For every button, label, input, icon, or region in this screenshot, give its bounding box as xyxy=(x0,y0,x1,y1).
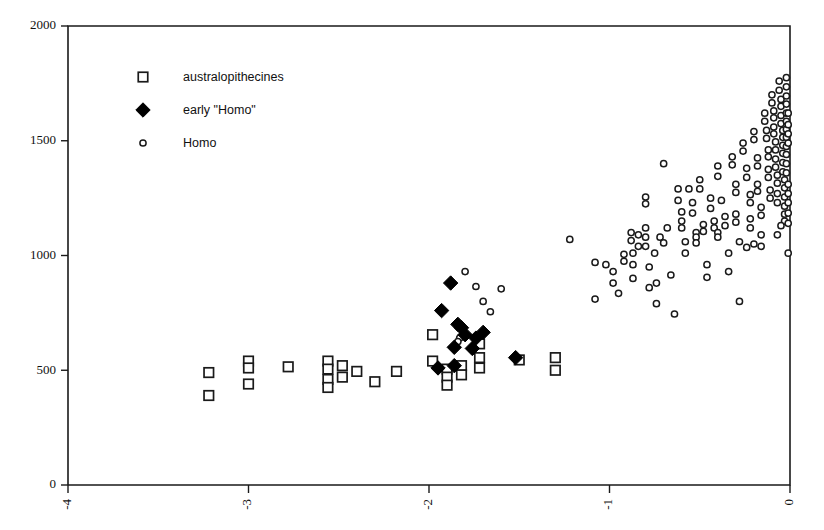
chart-legend: australopithecinesearly "Homo"Homo xyxy=(136,70,284,150)
data-point xyxy=(726,268,732,274)
data-points xyxy=(204,75,791,401)
data-point xyxy=(751,128,757,134)
x-tick-label--3: -3 xyxy=(239,499,254,510)
data-point xyxy=(772,164,778,170)
data-point xyxy=(771,124,777,130)
data-point xyxy=(774,180,780,186)
data-point xyxy=(715,173,721,179)
data-point xyxy=(643,234,649,240)
data-point xyxy=(204,391,214,401)
data-point xyxy=(697,186,703,192)
data-point xyxy=(776,78,782,84)
data-point xyxy=(733,189,739,195)
data-point xyxy=(785,110,791,116)
data-point xyxy=(664,225,670,231)
data-point xyxy=(392,367,402,377)
data-point xyxy=(783,101,789,107)
data-point xyxy=(736,298,742,304)
data-point xyxy=(772,156,778,162)
data-point xyxy=(646,285,652,291)
data-point xyxy=(689,210,695,216)
data-point xyxy=(621,258,627,264)
y-tick-label-2000: 2000 xyxy=(30,17,56,32)
data-point xyxy=(740,148,746,154)
data-point xyxy=(338,372,348,382)
data-point xyxy=(704,262,710,268)
data-point xyxy=(653,301,659,307)
data-point xyxy=(615,290,621,296)
data-point xyxy=(679,225,685,231)
data-point xyxy=(785,181,791,187)
data-point xyxy=(762,110,768,116)
data-point xyxy=(783,93,789,99)
data-point xyxy=(747,192,753,198)
data-point xyxy=(661,161,667,167)
data-point xyxy=(462,268,468,274)
data-point xyxy=(630,250,636,256)
data-point xyxy=(244,379,254,389)
x-tick-label--1: -1 xyxy=(600,499,615,510)
data-point xyxy=(675,197,681,203)
data-point xyxy=(592,259,598,265)
data-point xyxy=(785,140,791,146)
data-point xyxy=(628,237,634,243)
legend-label: Homo xyxy=(183,136,216,150)
data-point xyxy=(621,251,627,257)
data-point xyxy=(763,135,769,141)
data-point xyxy=(733,219,739,225)
data-point xyxy=(700,221,706,227)
data-point xyxy=(671,311,677,317)
data-point xyxy=(661,240,667,246)
data-point xyxy=(744,244,750,250)
data-point xyxy=(783,161,789,167)
data-point xyxy=(774,200,780,206)
data-point xyxy=(751,241,757,247)
y-tick-label-0: 0 xyxy=(50,476,57,491)
data-point xyxy=(428,330,438,340)
data-point xyxy=(774,232,780,238)
data-point xyxy=(434,303,448,317)
data-point xyxy=(675,186,681,192)
data-point xyxy=(744,165,750,171)
data-point xyxy=(785,200,791,206)
data-point xyxy=(758,243,764,249)
data-point xyxy=(767,187,773,193)
data-point xyxy=(726,250,732,256)
legend-marker-filled-diamond xyxy=(136,103,150,117)
data-point xyxy=(754,155,760,161)
data-point xyxy=(689,200,695,206)
data-point xyxy=(646,264,652,270)
data-point xyxy=(475,353,485,363)
data-point xyxy=(679,209,685,215)
x-tick-label-0: 0 xyxy=(781,499,796,506)
data-point xyxy=(551,366,561,376)
data-point xyxy=(747,200,753,206)
data-point xyxy=(769,100,775,106)
data-point xyxy=(473,283,479,289)
legend-marker-open-square xyxy=(138,72,148,82)
data-point xyxy=(707,195,713,201)
data-point xyxy=(480,298,486,304)
data-point xyxy=(754,163,760,169)
data-point xyxy=(370,377,380,387)
data-point xyxy=(498,286,504,292)
plot-canvas: 0500100015002000-4-3-2-10 australopithec… xyxy=(0,0,824,530)
legend-item-1: early "Homo" xyxy=(136,103,256,117)
data-point xyxy=(744,174,750,180)
data-point xyxy=(682,250,688,256)
data-point xyxy=(785,220,791,226)
data-point xyxy=(682,239,688,245)
data-point xyxy=(338,361,348,371)
data-point xyxy=(733,181,739,187)
data-point xyxy=(704,274,710,280)
data-point xyxy=(610,268,616,274)
legend-label: australopithecines xyxy=(183,70,284,84)
data-point xyxy=(635,232,641,238)
data-point xyxy=(765,147,771,153)
data-point xyxy=(442,380,452,390)
data-point xyxy=(785,122,791,128)
data-point xyxy=(635,243,641,249)
data-point xyxy=(778,223,784,229)
data-point xyxy=(785,250,791,256)
data-point xyxy=(487,309,493,315)
